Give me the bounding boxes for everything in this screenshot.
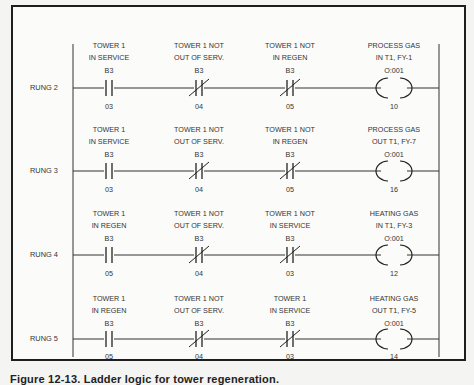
coil-description: IN T1, FY-1 <box>376 53 412 62</box>
contact-bit: 05 <box>105 352 113 361</box>
coil-description: IN T1, FY-3 <box>376 221 412 230</box>
contact-address: B3 <box>195 66 204 75</box>
contact-bit: 04 <box>195 185 203 194</box>
contact-address: B3 <box>286 66 295 75</box>
contact-address: B3 <box>105 319 114 328</box>
rung: RUNG 2 TOWER 1 IN SERVICE B3 03 TOWER 1 … <box>30 41 439 111</box>
contact-description: IN SERVICE <box>89 53 130 62</box>
contact-address: B3 <box>195 150 204 159</box>
contact-description: TOWER 1 NOT <box>265 125 315 134</box>
contact-bit: 03 <box>286 269 294 278</box>
contact-description: IN SERVICE <box>89 137 130 146</box>
normally-open-contact-icon <box>106 247 112 263</box>
coil-description: HEATING GAS <box>370 209 419 218</box>
normally-open-contact-icon <box>106 80 112 96</box>
output-coil-icon <box>376 329 412 349</box>
rung: RUNG 5 TOWER 1 IN REGEN B3 05 TOWER 1 NO… <box>30 294 439 361</box>
coil-bit: 12 <box>390 269 398 278</box>
contact-description: TOWER 1 <box>274 294 307 303</box>
contact-address: B3 <box>286 150 295 159</box>
contact-description: IN SERVICE <box>270 221 311 230</box>
coil-description: PROCESS GAS <box>368 125 421 134</box>
output-coil-icon <box>376 245 412 265</box>
contact-description: IN SERVICE <box>270 306 311 315</box>
contact-bit: 05 <box>286 185 294 194</box>
contact-description: IN REGEN <box>273 137 308 146</box>
contact-description: OUT OF SERV. <box>174 137 224 146</box>
contact-address: B3 <box>286 319 295 328</box>
contact-bit: 05 <box>286 102 294 111</box>
contact-bit: 03 <box>286 352 294 361</box>
normally-open-contact-icon <box>106 163 112 179</box>
contact-description: TOWER 1 NOT <box>174 209 224 218</box>
contact-description: TOWER 1 NOT <box>265 41 315 50</box>
contact-address: B3 <box>105 66 114 75</box>
normally-open-contact-icon <box>106 331 112 347</box>
contact-description: OUT OF SERV. <box>174 53 224 62</box>
contact-description: TOWER 1 <box>93 294 126 303</box>
contact-bit: 04 <box>195 269 203 278</box>
figure-caption: Figure 12-13. Ladder logic for tower reg… <box>10 373 279 385</box>
contact-address: B3 <box>195 319 204 328</box>
contact-bit: 05 <box>105 269 113 278</box>
coil-bit: 16 <box>390 185 398 194</box>
contact-description: OUT OF SERV. <box>174 221 224 230</box>
contact-address: B3 <box>195 234 204 243</box>
contact-address: B3 <box>286 234 295 243</box>
contact-description: TOWER 1 NOT <box>174 294 224 303</box>
coil-bit: 14 <box>390 352 398 361</box>
contact-address: B3 <box>105 234 114 243</box>
rung-label: RUNG 3 <box>30 166 58 175</box>
coil-description: PROCESS GAS <box>368 41 421 50</box>
coil-description: HEATING GAS <box>370 294 419 303</box>
contact-description: TOWER 1 NOT <box>174 41 224 50</box>
contact-address: B3 <box>105 150 114 159</box>
coil-description: OUT T1, FY-5 <box>372 306 416 315</box>
contact-bit: 03 <box>105 102 113 111</box>
rung-label: RUNG 4 <box>30 250 58 259</box>
contact-description: TOWER 1 <box>93 41 126 50</box>
coil-address: O:001 <box>384 66 404 75</box>
rung: RUNG 3 TOWER 1 IN SERVICE B3 03 TOWER 1 … <box>30 125 439 194</box>
ladder-diagram: RUNG 2 TOWER 1 IN SERVICE B3 03 TOWER 1 … <box>0 0 474 385</box>
contact-bit: 03 <box>105 185 113 194</box>
contact-description: TOWER 1 NOT <box>265 209 315 218</box>
output-coil-icon <box>376 161 412 181</box>
coil-address: O:001 <box>384 234 404 243</box>
output-coil-icon <box>376 78 412 98</box>
coil-bit: 10 <box>390 102 398 111</box>
contact-description: IN REGEN <box>92 221 127 230</box>
coil-description: OUT T1, FY-7 <box>372 137 416 146</box>
coil-address: O:001 <box>384 319 404 328</box>
contact-description: IN REGEN <box>273 53 308 62</box>
contact-bit: 04 <box>195 102 203 111</box>
contact-description: OUT OF SERV. <box>174 306 224 315</box>
coil-address: O:001 <box>384 150 404 159</box>
contact-description: TOWER 1 <box>93 125 126 134</box>
rung: RUNG 4 TOWER 1 IN REGEN B3 05 TOWER 1 NO… <box>30 209 439 278</box>
contact-description: TOWER 1 NOT <box>174 125 224 134</box>
rung-label: RUNG 2 <box>30 83 58 92</box>
contact-description: TOWER 1 <box>93 209 126 218</box>
rung-label: RUNG 5 <box>30 334 58 343</box>
contact-description: IN REGEN <box>92 306 127 315</box>
contact-bit: 04 <box>195 352 203 361</box>
